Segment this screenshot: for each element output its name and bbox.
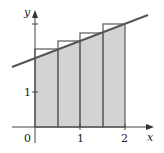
y-axis-arrow-icon — [32, 10, 38, 18]
x-axis-label: x — [147, 131, 154, 144]
x-label-2: 2 — [121, 132, 128, 145]
y-label-1: 1 — [24, 86, 31, 99]
y-axis-label: y — [23, 6, 31, 19]
x-axis-arrow-icon — [146, 124, 154, 130]
x-label-1: 1 — [77, 132, 84, 145]
riemann-sum-diagram: y x 0 1 2 1 — [0, 0, 164, 153]
origin-label: 0 — [24, 132, 31, 145]
